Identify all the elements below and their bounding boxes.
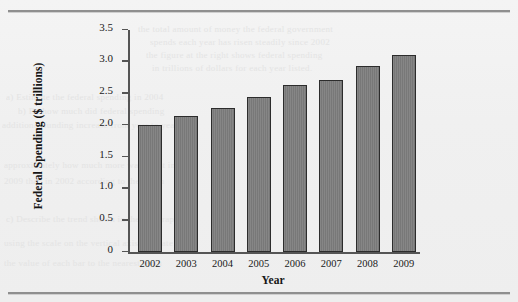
bar-group: 2005 xyxy=(247,30,271,252)
bar xyxy=(211,108,235,252)
bar-group: 2003 xyxy=(174,30,198,252)
bar-group: 2007 xyxy=(319,30,343,252)
x-axis-line xyxy=(128,252,420,254)
bar xyxy=(174,116,198,253)
bar-group: 2002 xyxy=(138,30,162,252)
y-axis-tick-label: 3.5 xyxy=(99,21,113,33)
plot-area: 00.51.01.52.02.53.03.5 20022003200420052… xyxy=(128,30,418,254)
x-axis-tick-label: 2006 xyxy=(283,258,307,269)
bar xyxy=(392,55,416,252)
x-axis-title: Year xyxy=(128,274,418,286)
y-axis-tick-label: 2.0 xyxy=(99,116,113,128)
bar-group: 2006 xyxy=(283,30,307,252)
bar-group: 2008 xyxy=(356,30,380,252)
x-axis-tick-label: 2003 xyxy=(174,258,198,269)
x-axis-tick-label: 2009 xyxy=(392,258,416,269)
bar xyxy=(283,85,307,252)
y-axis-title: Federal Spending ($ trillions) xyxy=(32,36,44,236)
y-axis-tick-label: 2.5 xyxy=(99,84,113,96)
y-axis-tick-label: 1.5 xyxy=(99,148,113,160)
x-axis-tick-label: 2005 xyxy=(247,258,271,269)
bar xyxy=(319,80,343,253)
bar-group: 2004 xyxy=(211,30,235,252)
x-axis-tick-label: 2002 xyxy=(138,258,162,269)
y-axis-tick-label: 3.0 xyxy=(99,52,113,64)
bar xyxy=(356,66,380,252)
x-axis-tick-label: 2007 xyxy=(319,258,343,269)
bar-group: 2009 xyxy=(392,30,416,252)
y-axis-tick-label: 0.5 xyxy=(99,211,113,223)
bar-series: 20022003200420052006200720082009 xyxy=(128,30,418,252)
bar-chart: Federal Spending ($ trillions) 00.51.01.… xyxy=(0,12,518,292)
x-axis-tick-label: 2008 xyxy=(356,258,380,269)
bottom-divider-rule xyxy=(8,292,510,294)
x-axis-tick-label: 2004 xyxy=(211,258,235,269)
y-axis-tick-label: 1.0 xyxy=(99,179,113,191)
y-axis-tick-label: 0 xyxy=(108,243,114,255)
bar xyxy=(247,97,271,253)
figure-page: the total amount of money the federal go… xyxy=(0,0,518,302)
bar xyxy=(138,125,162,252)
